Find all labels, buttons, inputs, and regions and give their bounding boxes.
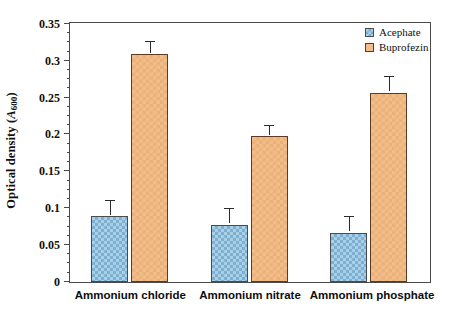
- error-bar-line: [229, 208, 230, 223]
- y-axis-title-italic: A: [4, 110, 18, 118]
- bar-acephate-ammonium-phosphate: [330, 233, 367, 282]
- bar-group: [190, 23, 310, 282]
- error-bar-cap: [344, 216, 354, 217]
- y-axis-tick-label: 0.35: [39, 17, 60, 32]
- chart-figure: Optical density (A600) 00.050.10.150.20.…: [0, 0, 452, 323]
- y-axis-title: Optical density (A600): [0, 0, 22, 300]
- legend-swatch-buprofezin-icon: [365, 43, 374, 52]
- y-axis-tick-label: 0.15: [39, 164, 60, 179]
- y-axis-tick-label: 0.05: [39, 237, 60, 252]
- error-bar-line: [349, 216, 350, 231]
- error-bar-line: [110, 200, 111, 215]
- legend-label-acephate: Acephate: [379, 27, 421, 38]
- legend-swatch-acephate-icon: [365, 28, 374, 37]
- y-axis-tick-label: 0.3: [45, 53, 60, 68]
- bar-group: [309, 23, 429, 282]
- error-bar-cap: [384, 76, 394, 77]
- error-bar-line: [150, 41, 151, 53]
- legend-item-buprofezin: Buprofezin: [365, 42, 428, 53]
- y-axis-tick-label: 0.2: [45, 127, 60, 142]
- error-bar-line: [269, 125, 270, 135]
- error-bar-cap: [105, 200, 115, 201]
- bar-acephate-ammonium-chloride: [91, 216, 128, 282]
- bar-buprofezin-ammonium-chloride: [131, 54, 168, 282]
- chart-legend: Acephate Buprofezin: [365, 27, 428, 57]
- y-axis-tick-label: 0.25: [39, 90, 60, 105]
- error-bar-cap: [264, 125, 274, 126]
- bar-buprofezin-ammonium-nitrate: [251, 136, 288, 282]
- x-axis-category-label: Ammonium nitrate: [190, 289, 310, 301]
- legend-item-acephate: Acephate: [365, 27, 428, 38]
- y-axis-title-text: Optical density (A600): [4, 92, 19, 208]
- plot-area: 00.050.10.150.20.250.30.35: [69, 22, 431, 283]
- y-axis-title-tail: ): [4, 92, 18, 96]
- bar-acephate-ammonium-nitrate: [211, 225, 248, 282]
- bar-group: [70, 23, 190, 282]
- error-bar-cap: [145, 41, 155, 42]
- x-axis-category-label: Ammonium chloride: [71, 289, 191, 301]
- y-axis-title-subscript: 600: [9, 96, 19, 110]
- legend-label-buprofezin: Buprofezin: [379, 42, 428, 53]
- bar-buprofezin-ammonium-phosphate: [370, 93, 407, 282]
- error-bar-line: [389, 76, 390, 91]
- y-axis-tick-label: 0: [54, 274, 60, 289]
- y-axis-tick-label: 0.1: [45, 201, 60, 216]
- error-bar-cap: [224, 208, 234, 209]
- plot-inner: 00.050.10.150.20.250.30.35: [70, 23, 430, 282]
- x-axis-category-label: Ammonium phosphate: [310, 289, 430, 301]
- y-axis-title-main: Optical density (: [4, 118, 18, 208]
